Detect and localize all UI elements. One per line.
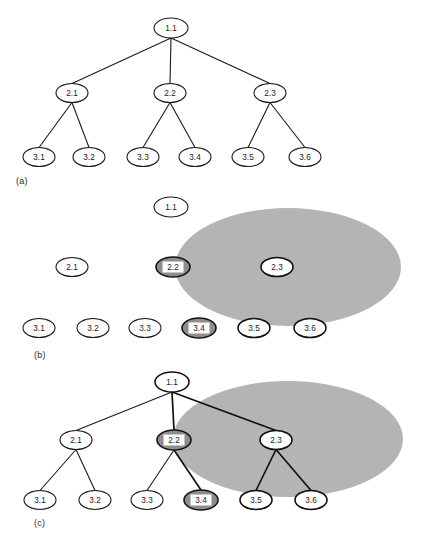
node-3-2[interactable]: 3.2: [73, 148, 105, 167]
edge-n11-n21: [72, 38, 171, 84]
node-3-4[interactable]: 3.4: [179, 148, 211, 167]
node-1-1[interactable]: 1.1: [154, 18, 188, 38]
node-3-6[interactable]: 3.6: [294, 319, 326, 338]
node-label: 3.5: [248, 324, 260, 333]
node-2-2[interactable]: 2.2: [156, 257, 190, 277]
node-label: 2.3: [270, 436, 282, 445]
edge-n21-n32: [76, 450, 95, 491]
node-3-1[interactable]: 3.1: [23, 148, 55, 167]
edge-n11-n22: [172, 392, 174, 430]
node-2-1[interactable]: 2.1: [56, 258, 88, 277]
node-label: 1.1: [165, 24, 177, 33]
node-label: 3.6: [299, 153, 311, 162]
panel-label-b: (b): [34, 350, 46, 360]
node-label: 3.2: [89, 496, 101, 505]
node-2-2[interactable]: 2.2: [154, 84, 186, 103]
node-label: 3.4: [195, 496, 207, 505]
node-label: 3.1: [33, 324, 45, 333]
node-label: 2.2: [167, 263, 179, 272]
node-label: 3.6: [305, 496, 317, 505]
node-2-2[interactable]: 2.2: [157, 430, 191, 450]
node-label: 2.2: [168, 436, 180, 445]
panel-c: 1.12.12.22.33.13.23.33.43.53.6: [24, 372, 403, 510]
node-3-5[interactable]: 3.5: [232, 148, 264, 167]
node-3-2[interactable]: 3.2: [77, 319, 109, 338]
node-3-4[interactable]: 3.4: [184, 490, 218, 510]
node-label: 2.2: [164, 89, 176, 98]
node-label: 3.3: [139, 324, 151, 333]
node-label: 3.4: [189, 153, 201, 162]
node-3-1[interactable]: 3.1: [23, 319, 55, 338]
node-label: 3.2: [87, 324, 99, 333]
node-label: 3.2: [83, 153, 95, 162]
edge-n22-n33: [147, 450, 174, 491]
figure-canvas: 1.12.12.22.33.13.23.33.43.53.61.12.12.22…: [0, 0, 423, 549]
node-3-6[interactable]: 3.6: [289, 148, 321, 167]
node-3-2[interactable]: 3.2: [79, 491, 111, 510]
edge-n21-n32: [72, 103, 89, 148]
node-3-5[interactable]: 3.5: [238, 319, 270, 338]
node-label: 2.3: [264, 89, 276, 98]
node-label: 3.6: [304, 324, 316, 333]
node-label: 3.5: [242, 153, 254, 162]
node-3-3[interactable]: 3.3: [127, 148, 159, 167]
panel-b: 1.12.12.22.33.13.23.33.43.53.6: [23, 197, 401, 338]
edge-n21-n31: [39, 103, 72, 148]
edge-n21-n31: [40, 450, 76, 491]
node-3-4[interactable]: 3.4: [182, 318, 216, 338]
node-label: 3.5: [250, 496, 262, 505]
node-label: 1.1: [165, 203, 177, 212]
edge-n22-n33: [143, 103, 170, 148]
node-2-3[interactable]: 2.3: [260, 431, 292, 450]
edge-n11-n23: [171, 38, 270, 84]
node-label: 1.1: [166, 378, 178, 387]
node-label: 3.4: [193, 324, 205, 333]
node-3-6[interactable]: 3.6: [295, 491, 327, 510]
node-label: 3.1: [34, 496, 46, 505]
edge-n22-n34: [170, 103, 195, 148]
edge-n11-n22: [170, 38, 171, 84]
edge-n23-n36: [270, 103, 305, 148]
node-label: 2.1: [66, 263, 78, 272]
node-1-1[interactable]: 1.1: [155, 372, 189, 392]
node-label: 3.3: [141, 496, 153, 505]
node-3-1[interactable]: 3.1: [24, 491, 56, 510]
node-2-3[interactable]: 2.3: [254, 84, 286, 103]
panel-label-c: (c): [34, 518, 45, 528]
panel-label-a: (a): [16, 176, 28, 186]
node-3-3[interactable]: 3.3: [131, 491, 163, 510]
node-label: 2.3: [271, 263, 283, 272]
node-3-3[interactable]: 3.3: [129, 319, 161, 338]
node-3-5[interactable]: 3.5: [240, 491, 272, 510]
node-label: 2.1: [70, 436, 82, 445]
node-label: 3.1: [33, 153, 45, 162]
node-1-1[interactable]: 1.1: [154, 197, 188, 217]
node-2-1[interactable]: 2.1: [56, 84, 88, 103]
hierarchy-diagram: 1.12.12.22.33.13.23.33.43.53.61.12.12.22…: [0, 0, 423, 549]
edge-n11-n21: [76, 392, 172, 431]
node-2-3[interactable]: 2.3: [261, 258, 293, 277]
node-2-1[interactable]: 2.1: [60, 431, 92, 450]
panel-a: 1.12.12.22.33.13.23.33.43.53.6: [23, 18, 321, 167]
node-label: 2.1: [66, 89, 78, 98]
edge-n23-n35: [248, 103, 270, 148]
node-label: 3.3: [137, 153, 149, 162]
